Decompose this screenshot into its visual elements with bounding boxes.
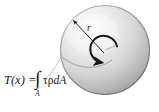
disk-highlight [66,13,118,53]
leader-line-icon [44,57,62,81]
torsion-cross-section-figure: T(x) = ∫ A τρdA r [0,0,159,112]
figure-canvas [0,0,159,112]
